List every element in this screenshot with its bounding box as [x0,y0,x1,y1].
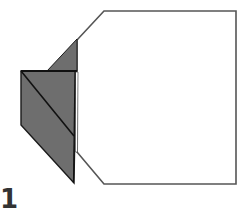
gray-folded-flap [21,71,76,183]
fold-diagram-svg [0,0,248,208]
white-slit [76,72,79,152]
gray-upper-triangle [47,39,77,71]
origami-diagram: 1 [0,0,248,208]
step-number-label: 1 [0,186,18,208]
white-paper-outline [77,11,236,184]
